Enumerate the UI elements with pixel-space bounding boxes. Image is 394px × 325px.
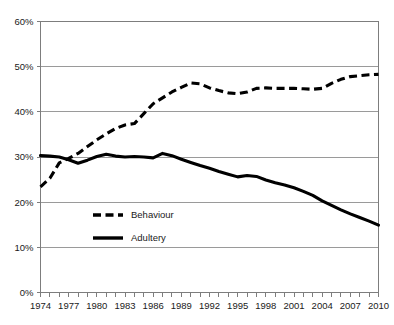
x-tick-label: 1977 [58, 300, 79, 311]
legend-label-adultery: Adultery [131, 232, 166, 243]
x-tick-label: 1992 [199, 300, 220, 311]
x-tick-label: 2004 [312, 300, 333, 311]
x-tick-label: 1986 [143, 300, 164, 311]
x-tick-label: 2010 [368, 300, 389, 311]
x-tick-label: 1983 [114, 300, 135, 311]
y-tick-label: 30% [14, 151, 34, 162]
x-tick-label: 1980 [86, 300, 107, 311]
y-tick-label: 40% [14, 106, 34, 117]
y-tick-label: 0% [20, 287, 34, 298]
y-tick-label: 50% [14, 61, 34, 72]
x-tick-label: 2001 [283, 300, 304, 311]
y-tick-label: 60% [14, 16, 34, 27]
y-tick-label: 20% [14, 197, 34, 208]
y-tick-label: 10% [14, 242, 34, 253]
line-chart: 0%10%20%30%40%50%60% 1974197719801983198… [0, 0, 394, 325]
x-tick-label: 1989 [171, 300, 192, 311]
chart-container: 0%10%20%30%40%50%60% 1974197719801983198… [0, 0, 394, 325]
x-tick-label: 1995 [227, 300, 248, 311]
x-tick-label: 1998 [255, 300, 276, 311]
legend-label-behaviour: Behaviour [131, 209, 174, 220]
x-tick-label: 1974 [30, 300, 51, 311]
x-tick-label: 2007 [340, 300, 361, 311]
